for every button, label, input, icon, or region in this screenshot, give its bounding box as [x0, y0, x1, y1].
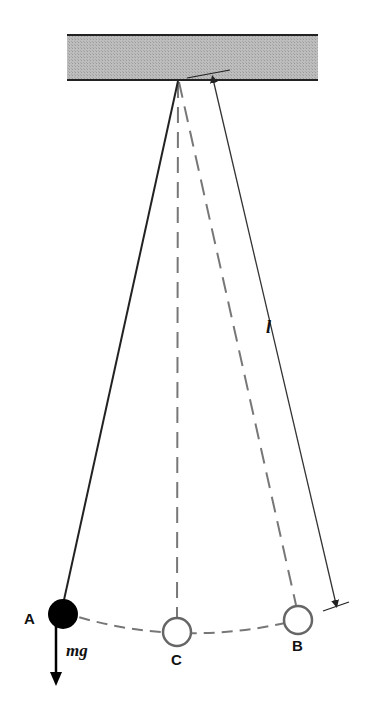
bob-position-b	[284, 606, 312, 634]
string-to-a	[64, 81, 178, 600]
label-a: A	[24, 610, 35, 627]
string-to-c	[177, 82, 178, 618]
ceiling-support	[67, 35, 318, 80]
string-to-b	[179, 82, 296, 605]
bob-position-a	[48, 599, 78, 629]
label-mg: mg	[66, 641, 88, 660]
length-label: l	[266, 317, 271, 337]
length-dimension-arrow	[213, 79, 336, 604]
label-b: B	[292, 637, 303, 654]
label-c: C	[171, 651, 182, 668]
bob-position-c	[163, 618, 191, 646]
gravity-force-arrow	[50, 620, 62, 686]
pendulum-diagram: l A C B mg	[0, 0, 375, 706]
